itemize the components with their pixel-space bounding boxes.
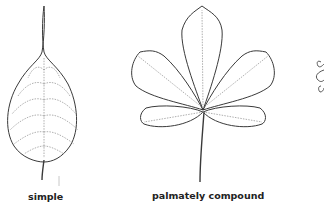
simple-leaf-label: simple (28, 191, 63, 202)
palmately-compound-leaf-icon (132, 6, 275, 182)
simple-leaf-icon (8, 6, 78, 186)
partial-leaf-icon (316, 61, 324, 92)
palmately-compound-label: palmately compound (152, 190, 264, 201)
leaf-types-figure: simple palmately compound (0, 0, 324, 209)
leaf-illustrations (0, 0, 324, 209)
